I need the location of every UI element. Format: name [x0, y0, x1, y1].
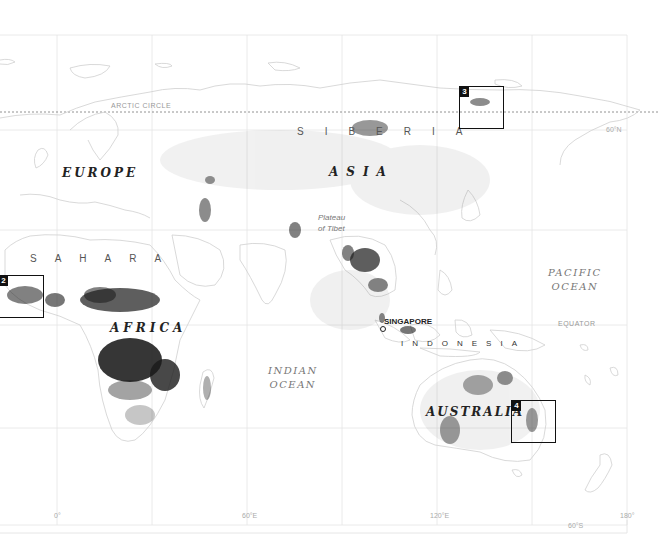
- tick-lon-120e: 120°E: [430, 512, 449, 519]
- region-africa: AFRICA: [110, 321, 186, 335]
- arctic-circle-label: ARCTIC CIRCLE: [111, 102, 171, 109]
- pacific-ocean-line2: OCEAN: [548, 280, 602, 294]
- inset-number-2: 2: [0, 276, 8, 286]
- region-indonesia: INDONESIA: [401, 339, 526, 348]
- inset-box-4[interactable]: 4: [511, 400, 556, 443]
- tick-lon-60e: 60°E: [242, 512, 257, 519]
- indian-ocean-line2: OCEAN: [268, 378, 318, 392]
- tibet-line1: Plateau: [318, 212, 345, 223]
- singapore-marker-icon: [380, 326, 386, 332]
- tibet-line2: of Tibet: [318, 223, 345, 234]
- inset-box-2[interactable]: 2: [0, 275, 44, 318]
- tick-lon-180: 180°: [620, 512, 634, 519]
- tick-lat-60n: 60°N: [606, 126, 622, 133]
- region-sahara: SAHARA: [30, 253, 179, 264]
- region-siberia: SIBERIA: [297, 126, 483, 137]
- region-asia: ASIA: [329, 165, 394, 179]
- pacific-ocean-label: PACIFIC OCEAN: [548, 266, 602, 294]
- tick-lat-60s: 60°S: [568, 522, 583, 529]
- indian-ocean-line1: INDIAN: [268, 364, 318, 378]
- inset-number-4: 4: [512, 401, 521, 411]
- inset-box-3[interactable]: 3: [459, 86, 504, 129]
- singapore-label: SINGAPORE: [384, 317, 432, 326]
- pacific-ocean-line1: PACIFIC: [548, 266, 602, 280]
- inset-number-3: 3: [460, 87, 469, 97]
- region-europe: EUROPE: [62, 166, 138, 180]
- tick-lon-0: 0°: [54, 512, 61, 519]
- indian-ocean-label: INDIAN OCEAN: [268, 364, 318, 392]
- tibet-label: Plateau of Tibet: [318, 212, 345, 234]
- equator-label: EQUATOR: [558, 320, 595, 327]
- region-australia: AUSTRALIA: [426, 405, 524, 419]
- world-map: ARCTIC CIRCLE EQUATOR EUROPE ASIA SIBERI…: [0, 0, 667, 554]
